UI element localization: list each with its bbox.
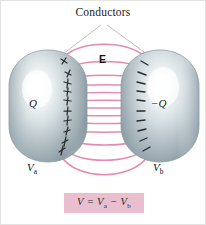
- charge-label-right: −Q: [151, 98, 166, 109]
- potential-vb-main: V: [153, 161, 160, 173]
- formula-term-a: V: [97, 196, 104, 207]
- formula-lhs: V: [77, 196, 84, 207]
- formula-minus: −: [110, 196, 117, 207]
- figure-canvas: [1, 1, 206, 225]
- formula-text: V = Va − Vb: [77, 196, 131, 210]
- charge-label-left: Q: [29, 98, 37, 109]
- formula-term-a-sub: a: [104, 202, 107, 210]
- formula-term-b-sub: b: [127, 202, 131, 210]
- potential-label-va: Va: [27, 162, 37, 176]
- physics-figure-conductors: Conductors E Q −Q Va Vb V = Va − Vb: [0, 0, 206, 225]
- potential-vb-sub: b: [160, 167, 164, 176]
- left-conductor: [9, 50, 87, 162]
- potential-label-vb: Vb: [153, 162, 163, 176]
- field-label-E: E: [99, 54, 106, 65]
- formula-equals: =: [87, 196, 94, 207]
- figure-caption-conductors: Conductors: [1, 7, 205, 19]
- formula-box: V = Va − Vb: [64, 193, 144, 213]
- potential-va-main: V: [27, 161, 34, 173]
- potential-va-sub: a: [34, 167, 37, 176]
